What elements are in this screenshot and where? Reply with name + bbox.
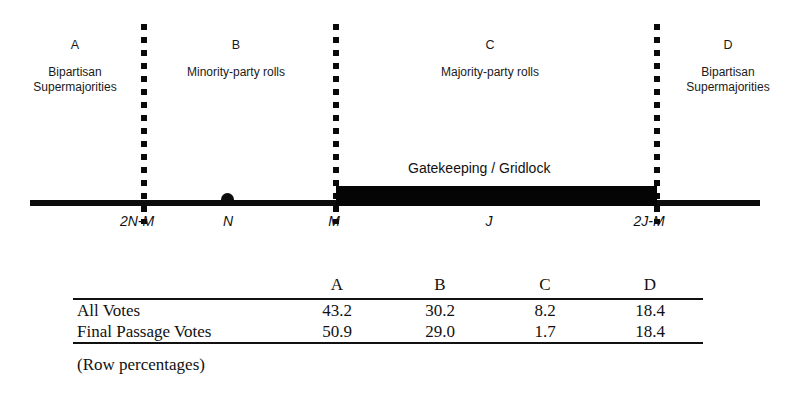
table-row: Final Passage Votes 50.9 29.0 1.7 18.4 [73,321,703,342]
cell-all-votes-c: 8.2 [534,300,555,321]
axis-label-2n-m: 2N-M [120,213,154,229]
column-header-d: D [644,274,656,295]
cell-final-passage-c: 1.7 [534,321,555,342]
cell-all-votes-d: 18.4 [635,300,665,321]
region-d-desc-line2: Supermajorities [686,80,769,95]
table-header-row: A B C D [73,274,703,298]
region-a-desc-line1: Bipartisan [33,65,116,80]
boundary-2n-m-dotted-line [141,24,147,224]
region-c-letter: C [441,38,539,53]
axis-label-2j-m: 2J-M [633,213,664,229]
gatekeeping-label: Gatekeeping / Gridlock [408,160,550,176]
region-a-label: A Bipartisan Supermajorities [33,38,116,95]
region-d-label: D Bipartisan Supermajorities [686,38,769,95]
n-point-marker [221,193,234,206]
gatekeeping-gridlock-bar [336,186,657,206]
row-label-all-votes: All Votes [77,300,140,321]
table-row: All Votes 43.2 30.2 8.2 18.4 [73,300,703,321]
column-header-a: A [331,274,343,295]
region-a-letter: A [33,38,116,53]
axis-label-j: J [486,213,493,229]
table-bottom-rule [73,342,703,344]
region-d-letter: D [686,38,769,53]
axis-label-n: N [223,213,233,229]
region-c-desc: Majority-party rolls [441,65,539,80]
region-d-desc-line1: Bipartisan [686,65,769,80]
cell-final-passage-d: 18.4 [635,321,665,342]
region-b-desc: Minority-party rolls [187,65,285,80]
cell-final-passage-b: 29.0 [425,321,455,342]
cell-all-votes-b: 30.2 [425,300,455,321]
cell-final-passage-a: 50.9 [322,321,352,342]
spatial-voting-diagram: A Bipartisan Supermajorities B Minority-… [0,0,800,397]
table-note: (Row percentages) [77,354,205,375]
column-header-b: B [434,274,445,295]
axis-label-m: M [328,213,340,229]
row-label-final-passage-votes: Final Passage Votes [77,321,211,342]
cell-all-votes-a: 43.2 [322,300,352,321]
region-b-label: B Minority-party rolls [187,38,285,80]
region-a-desc-line2: Supermajorities [33,80,116,95]
region-c-label: C Majority-party rolls [441,38,539,80]
column-header-c: C [539,274,550,295]
row-percentages-table: A B C D All Votes 43.2 30.2 8.2 18.4 Fin… [73,274,703,344]
region-b-letter: B [187,38,285,53]
